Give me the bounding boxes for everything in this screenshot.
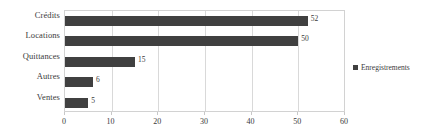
bar-value-locations: 50 xyxy=(298,34,309,44)
x-tick-40 xyxy=(251,112,252,115)
legend-marker-icon xyxy=(353,65,358,70)
x-tick-30 xyxy=(204,112,205,115)
y-axis-category-labels: Crédits Locations Quittances Autres Vent… xyxy=(0,10,60,112)
bar-credits[interactable] xyxy=(65,16,308,26)
gridline-40 xyxy=(252,11,253,111)
gridline-20 xyxy=(158,11,159,111)
x-tick-0 xyxy=(64,112,65,115)
x-tick-label-3: 30 xyxy=(200,117,208,126)
x-tick-label-4: 40 xyxy=(247,117,255,126)
bar-value-autres: 6 xyxy=(93,75,100,85)
chart-legend[interactable]: Enregistrements xyxy=(353,63,410,72)
y-axis-label-2: Quittances xyxy=(0,52,60,61)
bar-ventes[interactable] xyxy=(65,98,88,108)
y-axis-label-4: Ventes xyxy=(0,93,60,102)
y-axis-label-3: Autres xyxy=(0,72,60,81)
x-tick-10 xyxy=(111,112,112,115)
bar-value-credits: 52 xyxy=(308,14,319,24)
x-tick-20 xyxy=(157,112,158,115)
gridline-50 xyxy=(298,11,299,111)
bar-autres[interactable] xyxy=(65,77,93,87)
bar-chart: Crédits Locations Quittances Autres Vent… xyxy=(0,0,441,140)
bar-locations[interactable] xyxy=(65,36,298,46)
x-tick-60 xyxy=(344,112,345,115)
x-tick-label-6: 60 xyxy=(340,117,348,126)
x-tick-50 xyxy=(297,112,298,115)
x-tick-label-0: 0 xyxy=(62,117,66,126)
bar-quittances[interactable] xyxy=(65,57,135,67)
x-axis: 0 10 20 30 40 50 60 xyxy=(64,112,345,134)
bar-value-ventes: 5 xyxy=(88,96,95,106)
x-tick-label-2: 20 xyxy=(153,117,161,126)
y-axis-label-0: Crédits xyxy=(0,11,60,20)
plot-area: 52 50 15 6 5 xyxy=(64,10,345,112)
bar-value-quittances: 15 xyxy=(135,55,146,65)
gridline-30 xyxy=(205,11,206,111)
legend-entry-label: Enregistrements xyxy=(361,63,410,72)
y-axis-label-1: Locations xyxy=(0,31,60,40)
x-tick-label-1: 10 xyxy=(107,117,115,126)
x-tick-label-5: 50 xyxy=(293,117,301,126)
